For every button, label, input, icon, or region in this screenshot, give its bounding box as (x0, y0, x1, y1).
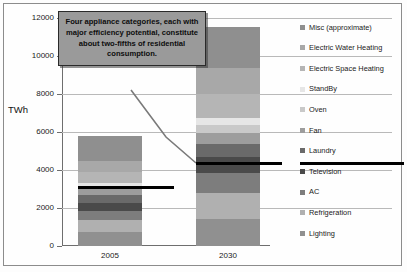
reference-line-2005 (78, 186, 174, 189)
y-axis-tick (57, 94, 62, 95)
x-axis-label-2005: 2005 (65, 251, 155, 260)
bar-segment-fan (196, 133, 260, 144)
legend-item-oven[interactable]: Oven (300, 99, 406, 120)
legend-item-laundry[interactable]: Laundry (300, 141, 406, 162)
legend-label: Misc (approximate) (309, 24, 372, 31)
legend-swatch-icon (300, 25, 305, 30)
chart-screenshot: TWh 020004000600080001000012000 20052030… (0, 0, 407, 272)
legend-label: AC (309, 188, 319, 195)
legend-swatch-icon (300, 66, 305, 71)
legend: Misc (approximate)Electric Water Heating… (300, 17, 406, 244)
bar-segment-ac (196, 173, 260, 192)
legend-swatch-icon (300, 87, 305, 92)
legend-swatch-icon (300, 169, 305, 174)
bar-segment-standby (196, 118, 260, 126)
y-axis-tick (57, 208, 62, 209)
bar-segment-electric-space-heating (196, 94, 260, 118)
bar-segment-oven (196, 125, 260, 133)
legend-item-misc-approximate[interactable]: Misc (approximate) (300, 17, 406, 38)
y-axis-tick (57, 170, 62, 171)
legend-swatch-icon (300, 45, 305, 50)
y-axis-tick-label: 8000 (36, 90, 54, 98)
bar-segment-electric-water-heating (196, 68, 260, 93)
x-axis-label-2030: 2030 (183, 251, 273, 260)
bar-segment-laundry (78, 195, 142, 202)
bar-segment-fan (78, 189, 142, 195)
y-axis-tick-label: 2000 (36, 204, 54, 212)
legend-item-television[interactable]: Television (300, 161, 406, 182)
bar-segment-ac (78, 211, 142, 220)
legend-swatch-icon (300, 128, 305, 133)
legend-label: Lighting (309, 230, 335, 237)
legend-swatch-icon (300, 231, 305, 236)
legend-swatch-icon (300, 107, 305, 112)
legend-label: Laundry (309, 147, 336, 154)
legend-label: StandBy (309, 85, 337, 92)
legend-item-fan[interactable]: Fan (300, 120, 406, 141)
callout-box: Four appliance categories, each with maj… (58, 11, 206, 66)
y-axis-tick (57, 132, 62, 133)
bar-segment-lighting (78, 232, 142, 246)
legend-item-ac[interactable]: AC (300, 182, 406, 203)
y-axis-tick-label: 6000 (36, 128, 54, 136)
legend-swatch-icon (300, 148, 305, 153)
bar-segment-electric-space-heating (78, 172, 142, 183)
bar-segment-television (78, 203, 142, 211)
legend-label: Refrigeration (309, 209, 351, 216)
legend-swatch-icon (300, 190, 305, 195)
legend-label: Electric Water Heating (309, 44, 382, 51)
bar-segment-lighting (196, 219, 260, 246)
bar-segment-laundry (196, 144, 260, 158)
legend-swatch-icon (300, 210, 305, 215)
bar-segment-refrigeration (196, 193, 260, 219)
bar-segment-refrigeration (78, 220, 142, 233)
legend-label: Fan (309, 127, 322, 134)
y-axis-tick-label: 12000 (32, 14, 54, 22)
y-axis-tick-label: 10000 (32, 52, 54, 60)
y-axis-tick (57, 246, 62, 247)
bar-segment-television (196, 157, 260, 173)
bar-segment-electric-water-heating (78, 161, 142, 172)
y-axis-title: TWh (8, 104, 28, 115)
legend-label: Electric Space Heating (309, 65, 384, 72)
callout-text: Four appliance categories, each with maj… (65, 17, 199, 60)
bar-segment-misc-approximate (78, 136, 142, 161)
legend-item-electric-water-heating[interactable]: Electric Water Heating (300, 38, 406, 59)
legend-label: Oven (309, 106, 327, 113)
legend-label: Television (309, 168, 341, 175)
reference-line-2030 (196, 162, 282, 165)
legend-item-standby[interactable]: StandBy (300, 79, 406, 100)
legend-item-electric-space-heating[interactable]: Electric Space Heating (300, 58, 406, 79)
y-axis-tick-label: 0 (50, 242, 54, 250)
legend-item-refrigeration[interactable]: Refrigeration (300, 202, 406, 223)
y-axis-tick-label: 4000 (36, 166, 54, 174)
legend-item-lighting[interactable]: Lighting (300, 223, 406, 244)
